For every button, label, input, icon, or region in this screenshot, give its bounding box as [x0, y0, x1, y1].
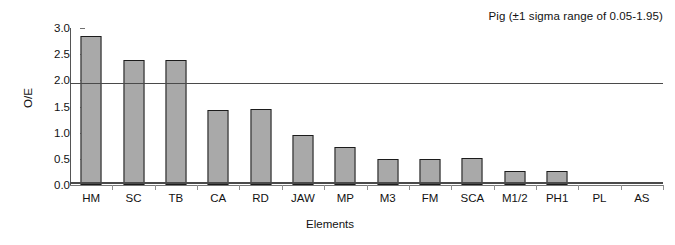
y-tick-label: 0.5: [26, 153, 70, 165]
x-tick-label: TB: [169, 192, 184, 204]
bar-slot: [197, 28, 239, 185]
x-tick-label: HM: [82, 192, 100, 204]
x-tick-mark: [197, 185, 198, 190]
bar-slot: [324, 28, 366, 185]
x-tick-mark: [409, 185, 410, 190]
bar-slot: [70, 28, 112, 185]
bar-sca[interactable]: [462, 158, 483, 185]
chart-figure: Pig (±1 sigma range of 0.05-1.95) O/E El…: [0, 0, 675, 245]
x-tick-label: SCA: [461, 192, 485, 204]
bar-mp[interactable]: [335, 147, 356, 185]
bar-slot: [239, 28, 281, 185]
plot-area: [70, 28, 663, 185]
x-tick-mark: [324, 185, 325, 190]
bar-slot: [409, 28, 451, 185]
x-tick-label: JAW: [291, 192, 315, 204]
x-tick-mark: [112, 185, 113, 190]
x-tick-mark: [578, 185, 579, 190]
x-tick-label: M1/2: [502, 192, 528, 204]
bar-slot: [282, 28, 324, 185]
bar-rd[interactable]: [250, 109, 271, 185]
x-tick-mark: [239, 185, 240, 190]
bar-jaw[interactable]: [292, 135, 313, 185]
bar-slot: [112, 28, 154, 185]
x-tick-mark: [621, 185, 622, 190]
x-tick-mark: [663, 185, 664, 190]
x-tick-mark: [155, 185, 156, 190]
x-tick-label: PH1: [546, 192, 568, 204]
x-tick-label: M3: [380, 192, 396, 204]
bar-fm[interactable]: [420, 159, 441, 185]
x-tick-label: MP: [337, 192, 354, 204]
bar-tb[interactable]: [165, 60, 186, 185]
x-tick-label: FM: [422, 192, 439, 204]
x-tick-mark: [536, 185, 537, 190]
bar-ca[interactable]: [208, 110, 229, 185]
x-tick-label: RD: [252, 192, 269, 204]
x-axis-title: Elements: [70, 218, 590, 230]
x-tick-mark: [451, 185, 452, 190]
y-tick-label: 2.5: [26, 48, 70, 60]
y-tick-label: 3.0: [26, 22, 70, 34]
bar-slot: [536, 28, 578, 185]
bar-slot: [155, 28, 197, 185]
bar-hm[interactable]: [81, 36, 102, 185]
lower-sigma-line: [70, 182, 663, 183]
chart-title: Pig (±1 sigma range of 0.05-1.95): [488, 10, 663, 22]
bar-slot: [367, 28, 409, 185]
bar-m3[interactable]: [377, 159, 398, 185]
upper-sigma-line: [70, 83, 663, 84]
bar-slot: [578, 28, 620, 185]
y-tick-label: 0.0: [26, 179, 70, 191]
y-tick-label: 1.5: [26, 101, 70, 113]
bar-sc[interactable]: [123, 60, 144, 185]
x-tick-label: PL: [592, 192, 606, 204]
bar-slot: [451, 28, 493, 185]
x-tick-mark: [494, 185, 495, 190]
x-tick-label: SC: [126, 192, 142, 204]
y-tick-label: 2.0: [26, 74, 70, 86]
bar-slot: [494, 28, 536, 185]
x-tick-label: CA: [210, 192, 226, 204]
x-tick-mark: [367, 185, 368, 190]
y-tick-label: 1.0: [26, 127, 70, 139]
x-tick-mark: [282, 185, 283, 190]
bar-slot: [621, 28, 663, 185]
x-tick-label: AS: [634, 192, 649, 204]
y-axis-ticks: 0.00.51.01.52.02.53.0: [14, 0, 70, 245]
